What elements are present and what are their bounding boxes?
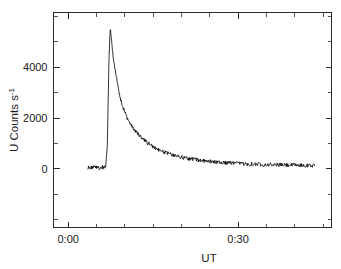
- y-tick-labels: 020004000: [23, 61, 47, 175]
- light-curve-chart: 0:000:30 020004000 UT U Counts s-1: [0, 0, 341, 269]
- y-tick-label: 2000: [23, 112, 47, 124]
- plot-frame: [54, 13, 332, 228]
- x-axis-title: UT: [201, 252, 216, 264]
- y-axis-title: U Counts s-1: [7, 87, 20, 152]
- figure-container: 0:000:30 020004000 UT U Counts s-1: [0, 0, 341, 269]
- x-tick-label: 0:00: [58, 233, 79, 245]
- x-tick-labels: 0:000:30: [58, 233, 249, 245]
- axis-ticks: [54, 13, 332, 228]
- burst-light-curve: [88, 30, 314, 170]
- y-tick-label: 4000: [23, 61, 47, 73]
- y-tick-label: 0: [41, 163, 47, 175]
- data-trace-layer: [88, 30, 314, 170]
- x-tick-label: 0:30: [227, 233, 248, 245]
